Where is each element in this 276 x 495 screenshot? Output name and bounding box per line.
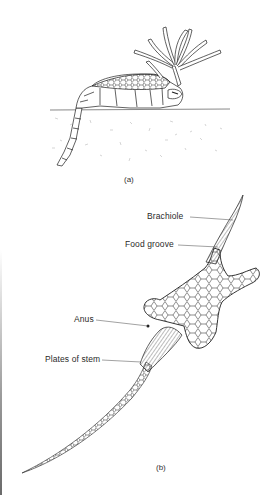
label-brachiole: Brachiole <box>147 211 183 221</box>
label-food-groove: Food groove <box>125 239 174 249</box>
label-anus: Anus <box>74 314 94 324</box>
stem-a <box>57 108 82 166</box>
panel-a-drawing <box>50 27 230 166</box>
caption-b: (b) <box>156 463 166 472</box>
label-plates-of-stem: Plates of stem <box>45 354 100 364</box>
stem-b <box>22 362 152 473</box>
stem-plates-b <box>140 327 182 372</box>
panel-b-drawing <box>22 195 259 473</box>
caption-a: (a) <box>124 175 134 184</box>
theca-a <box>76 74 183 108</box>
brachiole-b <box>206 195 243 264</box>
